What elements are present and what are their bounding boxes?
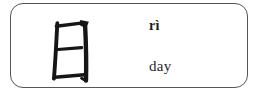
hanzi-character: 日: [44, 17, 93, 85]
hanzi-ri-brush-glyph: [44, 17, 93, 85]
pinyin-text: rì: [149, 17, 160, 35]
meaning-text: day: [149, 57, 172, 76]
screenshot-canvas: 日 rì day: [0, 0, 262, 95]
flashcard[interactable]: 日 rì day: [10, 3, 248, 88]
